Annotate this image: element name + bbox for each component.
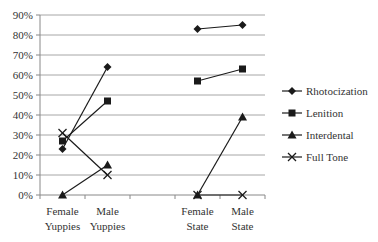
legend-item-interdental: Interdental [282,129,354,141]
series-line [63,133,108,175]
legend-label: Full Tone [306,151,348,163]
legend-label: Lenition [306,107,344,119]
line-chart: 0%10%20%30%40%50%60%70%80%90% FemaleYupp… [0,0,378,242]
legend-item-lenition: Lenition [282,107,344,119]
series-rhotocization [59,21,247,153]
legend-label: Rhotocization [306,85,368,97]
series-line [198,117,243,195]
y-tick-label: 80% [13,29,33,41]
square-marker-icon [194,78,201,85]
x-category-label: Male [96,205,119,217]
diamond-marker-icon [194,25,202,33]
x-category-label: Yuppies [90,220,125,232]
y-tick-label: 60% [13,69,33,81]
data-series [58,21,247,199]
legend: RhotocizationLenitionInterdentalFull Ton… [282,85,368,163]
x-category-label: Female [181,205,213,217]
square-marker-icon [104,98,111,105]
y-tick-label: 0% [18,189,33,201]
y-tick-label: 50% [13,89,33,101]
series-full-tone [59,129,247,199]
diamond-marker-icon [59,145,67,153]
triangle-marker-icon [103,161,112,169]
square-marker-icon [239,66,246,73]
x-category-label: State [232,220,254,232]
y-tick-label: 30% [13,129,33,141]
triangle-marker-icon [238,113,247,121]
legend-item-rhotocization: Rhotocization [282,85,368,97]
y-tick-label: 70% [13,49,33,61]
y-axis-tick-labels: 0%10%20%30%40%50%60%70%80%90% [13,9,33,201]
gridlines [36,15,265,195]
square-marker-icon [289,110,296,117]
x-category-label: State [187,220,209,232]
series-line [198,25,243,29]
x-axis [40,195,265,199]
y-tick-label: 90% [13,9,33,21]
x-category-label: Yuppies [45,220,80,232]
square-marker-icon [59,138,66,145]
x-marker-icon [59,129,67,137]
y-tick-label: 40% [13,109,33,121]
x-category-label: Female [46,205,78,217]
legend-item-full-tone: Full Tone [282,151,348,163]
legend-label: Interdental [306,129,354,141]
diamond-marker-icon [239,21,247,29]
diamond-marker-icon [104,63,112,71]
series-line [63,67,108,149]
diamond-marker-icon [288,87,296,95]
x-axis-category-labels: FemaleYuppiesMaleYuppiesFemaleStateMaleS… [45,205,254,232]
y-tick-label: 20% [13,149,33,161]
x-category-label: Male [231,205,254,217]
y-tick-label: 10% [13,169,33,181]
